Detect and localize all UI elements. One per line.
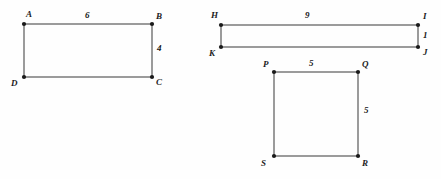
vertex-h-dot bbox=[219, 23, 223, 27]
vertex-label-d: D bbox=[11, 79, 18, 88]
geometry-figure-canvas bbox=[0, 0, 441, 179]
vertex-b-dot bbox=[150, 22, 154, 26]
vertex-k-dot bbox=[219, 45, 223, 49]
vertex-c-dot bbox=[150, 75, 154, 79]
square-pqrs-outline bbox=[274, 72, 358, 156]
rectangle-hijk-outline bbox=[221, 25, 418, 47]
vertex-s-dot bbox=[272, 154, 276, 158]
figure-square-pqrs bbox=[272, 70, 360, 158]
vertex-i-dot bbox=[416, 23, 420, 27]
vertex-j-dot bbox=[416, 45, 420, 49]
vertex-label-q: Q bbox=[362, 60, 369, 69]
rectangle-abcd-outline bbox=[24, 24, 152, 77]
vertex-q-dot bbox=[356, 70, 360, 74]
vertex-label-a: A bbox=[26, 10, 32, 19]
dimension-label-hijk-right: 1 bbox=[423, 31, 428, 40]
figure-rectangle-abcd bbox=[22, 22, 154, 79]
dimension-label-pqrs-top: 5 bbox=[309, 59, 314, 68]
vertex-label-i: I bbox=[423, 12, 427, 21]
dimension-label-abcd-right: 4 bbox=[157, 44, 162, 53]
vertex-p-dot bbox=[272, 70, 276, 74]
dimension-label-pqrs-right: 5 bbox=[364, 106, 369, 115]
vertex-label-b: B bbox=[156, 12, 162, 21]
vertex-label-s: S bbox=[261, 159, 266, 168]
dimension-label-abcd-top: 6 bbox=[85, 11, 90, 20]
vertex-label-c: C bbox=[156, 78, 162, 87]
vertex-a-dot bbox=[22, 22, 26, 26]
vertex-label-p: P bbox=[263, 60, 269, 69]
vertex-d-dot bbox=[22, 75, 26, 79]
vertex-label-r: R bbox=[362, 159, 368, 168]
figure-rectangle-hijk bbox=[219, 23, 420, 49]
vertex-r-dot bbox=[356, 154, 360, 158]
vertex-label-k: K bbox=[209, 49, 215, 58]
dimension-label-hijk-top: 9 bbox=[305, 11, 310, 20]
vertex-label-h: H bbox=[211, 11, 218, 20]
vertex-label-j: J bbox=[423, 48, 428, 57]
